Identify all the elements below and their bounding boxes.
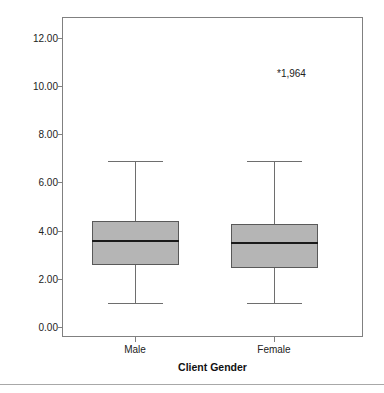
male-box [92,221,179,265]
plot-area: *1,964 [62,17,363,337]
y-tick-label: 0.00 [18,322,58,333]
female-lower-whisker-cap [247,303,302,304]
y-tick-label: 10.00 [18,81,58,92]
female-median-line [231,242,318,244]
outlier-case-label: *1,964 [277,68,306,79]
x-tick-label-female: Female [229,344,319,355]
x-tick-label-male: Male [90,344,180,355]
x-tick-mark [135,337,136,342]
y-tick-label: 6.00 [18,177,58,188]
box-plot-figure: QL-SF Subjective Mean 12.00 10.00 8.00 6… [0,0,384,393]
male-upper-whisker [135,161,136,221]
male-lower-whisker [135,265,136,303]
male-median-line [92,240,179,242]
y-tick-label: 2.00 [18,274,58,285]
x-axis-title: Client Gender [62,361,363,373]
x-tick-mark [274,337,275,342]
female-upper-whisker [274,161,275,224]
female-upper-whisker-cap [247,161,302,162]
female-box [231,224,318,268]
y-tick-label: 12.00 [18,33,58,44]
y-tick-label: 8.00 [18,129,58,140]
male-upper-whisker-cap [108,161,163,162]
y-axis-tick-labels: 12.00 10.00 8.00 6.00 4.00 2.00 0.00 [16,0,58,393]
male-lower-whisker-cap [108,303,163,304]
y-tick-label: 4.00 [18,226,58,237]
bottom-separator-rule [0,384,384,385]
female-lower-whisker [274,268,275,303]
